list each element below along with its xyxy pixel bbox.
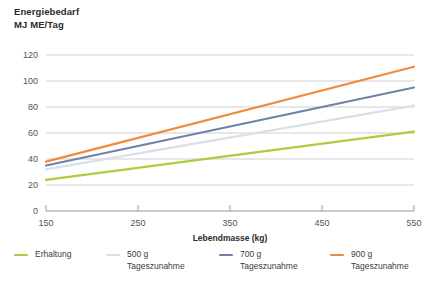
x-tick-label-450: 450 — [314, 218, 329, 228]
legend-label-900g: 900 g Tageszunahme — [351, 249, 409, 272]
legend-label-line-2: Tageszunahme — [127, 261, 185, 273]
plot-area: 120 100 80 60 40 20 0 150 250 350 450 55… — [0, 0, 425, 249]
energy-requirement-chart: Energiebedarf MJ ME/Tag 120 100 80 — [0, 0, 425, 288]
series-line-2 — [46, 88, 414, 166]
y-tick-label-20: 20 — [28, 180, 38, 190]
x-axis-labels: 150 250 350 450 550 — [38, 218, 421, 228]
legend-item-700g[interactable]: 700 g Tageszunahme — [219, 249, 298, 272]
legend-swatch-700g — [219, 254, 233, 257]
x-tick-label-350: 350 — [222, 218, 237, 228]
gridlines — [46, 55, 414, 185]
y-axis-labels: 120 100 80 60 40 20 0 — [23, 50, 38, 216]
legend-swatch-erhaltung — [14, 254, 28, 257]
legend-label-erhaltung: Erhaltung — [35, 249, 71, 261]
y-tick-label-0: 0 — [33, 206, 38, 216]
legend-item-erhaltung[interactable]: Erhaltung — [14, 249, 71, 261]
series-line-0 — [46, 132, 414, 180]
y-tick-label-120: 120 — [23, 50, 38, 60]
legend-label-line-1: 900 g — [351, 249, 409, 261]
legend-swatch-500g — [106, 254, 120, 257]
x-axis-ticks — [46, 205, 414, 211]
y-tick-label-60: 60 — [28, 128, 38, 138]
series-lines — [46, 67, 414, 180]
x-tick-label-150: 150 — [38, 218, 53, 228]
legend-item-900g[interactable]: 900 g Tageszunahme — [330, 249, 409, 272]
legend-label-500g: 500 g Tageszunahme — [127, 249, 185, 272]
x-tick-label-250: 250 — [130, 218, 145, 228]
x-tick-label-550: 550 — [406, 218, 421, 228]
legend-label-line-2: Tageszunahme — [351, 261, 409, 273]
legend-label-line-1: 700 g — [240, 249, 298, 261]
legend-label-line-1: Erhaltung — [35, 249, 71, 261]
y-tick-label-80: 80 — [28, 102, 38, 112]
chart-legend: Erhaltung 500 g Tageszunahme 700 g Tages… — [0, 249, 425, 287]
y-tick-label-40: 40 — [28, 154, 38, 164]
legend-item-500g[interactable]: 500 g Tageszunahme — [106, 249, 185, 272]
x-axis-title: Lebendmasse (kg) — [193, 233, 268, 243]
legend-label-line-2: Tageszunahme — [240, 261, 298, 273]
legend-label-line-1: 500 g — [127, 249, 185, 261]
legend-label-700g: 700 g Tageszunahme — [240, 249, 298, 272]
y-tick-label-100: 100 — [23, 76, 38, 86]
legend-swatch-900g — [330, 254, 344, 257]
